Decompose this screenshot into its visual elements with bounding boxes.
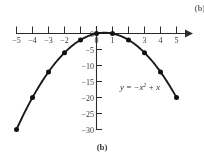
equation-lead: y = −x [119,82,143,92]
y-tick-label: −10 [81,62,94,71]
data-point [126,37,131,42]
data-point [30,95,35,100]
figure-container: (b) −5−4−3−201345 0−5−10−15−20−25−30 y =… [0,0,204,155]
equation-annotation: y = −x2 + x [119,82,160,92]
data-point [78,37,83,42]
y-tick-label: −30 [81,126,94,135]
data-point [142,50,147,55]
data-point [14,127,19,132]
x-tick-label: −4 [28,36,37,45]
equation-tail: + x [146,82,160,92]
y-tick-label: −20 [81,94,94,103]
x-tick-label: −2 [60,36,69,45]
x-tick-label: 4 [159,36,163,45]
data-point [174,95,179,100]
axes-group [16,26,193,130]
part-label-bottom: (b) [0,142,204,152]
data-point [110,31,115,36]
x-tick-label: 1 [111,36,115,45]
data-point [94,31,99,36]
data-point [62,50,67,55]
y-tick-label: −25 [81,110,94,119]
x-tick-label: 0 [95,36,99,45]
y-tick-label: −15 [81,78,94,87]
x-tick-label: 3 [143,36,147,45]
x-tick-label: −5 [12,36,21,45]
data-point [158,69,163,74]
y-axis-ticks: 0−5−10−15−20−25−30 [81,30,102,135]
parabola-plot: −5−4−3−201345 0−5−10−15−20−25−30 y = −x2… [0,0,204,155]
x-axis-arrow-icon [185,30,193,38]
y-tick-label: −5 [85,46,94,55]
data-point [46,69,51,74]
x-tick-label: −3 [44,36,53,45]
x-tick-label: 5 [175,36,179,45]
